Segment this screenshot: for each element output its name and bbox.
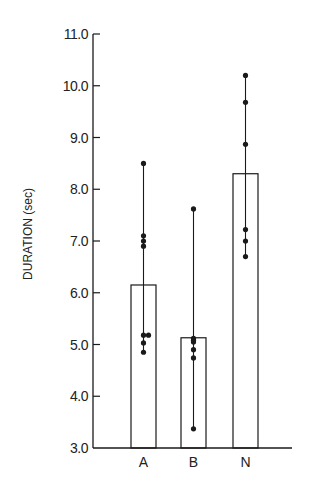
data-point xyxy=(141,333,146,338)
data-point xyxy=(141,350,146,355)
x-label-n: N xyxy=(240,454,250,470)
bars xyxy=(131,174,258,448)
y-tick-label: 4.0 xyxy=(70,388,89,404)
data-point xyxy=(243,142,248,147)
x-category-labels: ABN xyxy=(139,454,251,470)
data-point xyxy=(191,206,196,211)
data-point xyxy=(243,227,248,232)
data-point xyxy=(141,161,146,166)
chart-canvas: 3.04.05.06.07.08.09.010.011.0 ABN DURATI… xyxy=(0,0,309,483)
data-point xyxy=(243,73,248,78)
data-point xyxy=(243,238,248,243)
data-point xyxy=(141,244,146,249)
y-tick-label: 5.0 xyxy=(70,337,89,353)
x-label-b: B xyxy=(189,454,198,470)
y-ticks: 3.04.05.06.07.08.09.010.011.0 xyxy=(63,26,100,456)
y-axis-title: DURATION (sec) xyxy=(21,188,35,280)
data-point xyxy=(141,233,146,238)
x-label-a: A xyxy=(139,454,149,470)
y-tick-label: 9.0 xyxy=(70,130,89,146)
y-tick-label: 10.0 xyxy=(63,78,89,94)
y-tick-label: 6.0 xyxy=(70,285,89,301)
y-tick-label: 8.0 xyxy=(70,181,89,197)
data-point xyxy=(243,100,248,105)
bar-chart: 3.04.05.06.07.08.09.010.011.0 ABN DURATI… xyxy=(0,0,309,483)
data-point xyxy=(191,426,196,431)
data-point xyxy=(191,339,196,344)
data-point xyxy=(146,333,151,338)
data-point xyxy=(191,355,196,360)
y-tick-label: 3.0 xyxy=(70,440,89,456)
y-tick-label: 7.0 xyxy=(70,233,89,249)
data-point xyxy=(141,238,146,243)
y-tick-label: 11.0 xyxy=(64,26,89,42)
data-point xyxy=(141,340,146,345)
data-point xyxy=(191,347,196,352)
data-point xyxy=(243,254,248,259)
